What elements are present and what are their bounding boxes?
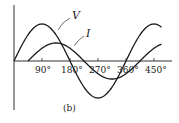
tick-label-270: 270° — [89, 65, 111, 75]
voltage-leader-line — [58, 18, 70, 30]
waveform-diagram: V I 90° 180° 270° 360° 450° (b) — [0, 0, 179, 123]
tick-label-180: 180° — [61, 65, 83, 75]
tick-label-90: 90° — [35, 65, 51, 75]
voltage-label: V — [72, 9, 81, 22]
tick-label-360: 360° — [117, 65, 139, 75]
current-label: I — [85, 27, 91, 40]
figure-caption: (b) — [63, 103, 76, 113]
tick-label-450: 450° — [145, 65, 167, 75]
current-leader-line — [74, 36, 84, 46]
